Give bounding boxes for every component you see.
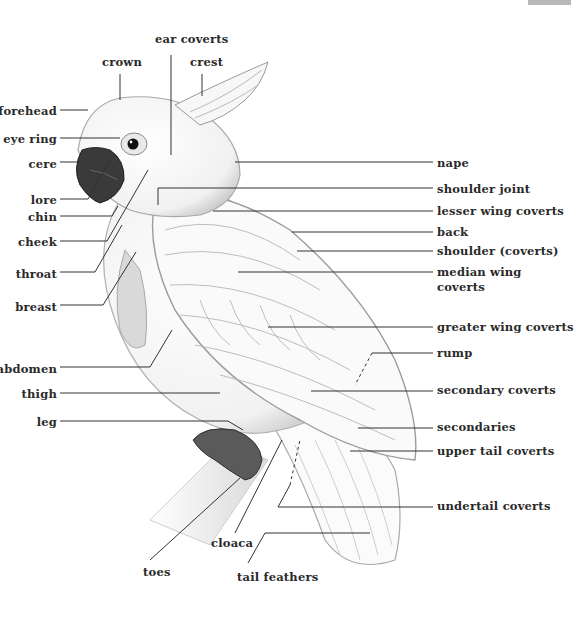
label-toes: toes	[143, 565, 171, 579]
label-eye-ring: eye ring	[3, 132, 57, 146]
label-secondaries: secondaries	[437, 420, 516, 434]
eye	[128, 139, 139, 150]
label-ear-coverts: ear coverts	[155, 32, 229, 46]
label-abdomen: abdomen	[0, 362, 57, 376]
label-upper-tail-coverts: upper tail coverts	[437, 444, 554, 458]
label-leg: leg	[37, 415, 57, 429]
label-lore: lore	[31, 193, 57, 207]
label-crest: crest	[190, 55, 223, 69]
label-undertail-coverts: undertail coverts	[437, 499, 551, 513]
label-nape: nape	[437, 156, 469, 170]
label-forehead: forehead	[0, 104, 57, 118]
label-median-wing-coverts: median wing	[437, 265, 522, 279]
label-thigh: thigh	[22, 387, 57, 401]
label-rump: rump	[437, 346, 472, 360]
label-back: back	[437, 225, 468, 239]
label-shoulder-coverts: shoulder (coverts)	[437, 244, 559, 258]
label-tail-feathers: tail feathers	[237, 570, 318, 584]
label-cere: cere	[29, 157, 58, 171]
label-chin: chin	[28, 210, 57, 224]
label-cheek: cheek	[18, 235, 57, 249]
label-cloaca: cloaca	[211, 536, 253, 550]
label-breast: breast	[15, 300, 57, 314]
label-crown: crown	[102, 55, 142, 69]
label-lesser-wing-coverts: lesser wing coverts	[437, 204, 564, 218]
label-secondary-coverts: secondary coverts	[437, 383, 556, 397]
crest	[175, 62, 268, 125]
label-throat: throat	[16, 267, 57, 281]
label-median-wing-coverts-line2: coverts	[437, 280, 485, 294]
label-shoulder-joint: shoulder joint	[437, 182, 530, 196]
label-greater-wing-coverts: greater wing coverts	[437, 320, 574, 334]
